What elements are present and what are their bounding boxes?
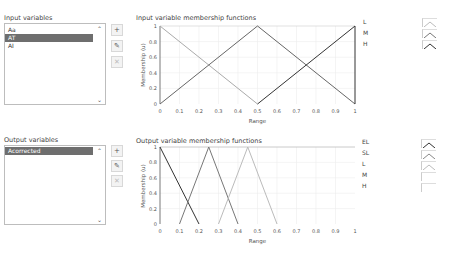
svg-text:0.9: 0.9 <box>332 108 340 114</box>
svg-text:0.6: 0.6 <box>273 108 281 114</box>
legend-m: M <box>363 29 368 36</box>
legend-sl: SL <box>362 149 369 156</box>
svg-text:0.7: 0.7 <box>293 108 301 114</box>
edit-output-variable-button[interactable]: ✎ <box>111 160 123 172</box>
mf-triangle-icon-el[interactable] <box>421 139 436 148</box>
legend-l: L <box>362 160 365 167</box>
list-item-ai[interactable]: AI <box>5 42 93 50</box>
scroll-down-icon[interactable]: ⌄ <box>97 96 102 103</box>
legend-el: EL <box>362 138 369 145</box>
svg-text:0.4: 0.4 <box>149 190 157 196</box>
legend-h: H <box>363 40 368 47</box>
edit-input-variable-button[interactable]: ✎ <box>111 40 123 52</box>
svg-text:0: 0 <box>154 221 157 227</box>
mf-triangle-icon-l[interactable] <box>422 18 437 27</box>
svg-text:0.2: 0.2 <box>149 206 157 212</box>
mf-triangle-icon-m[interactable] <box>422 29 437 38</box>
svg-text:0.8: 0.8 <box>149 159 157 165</box>
series-sl <box>180 147 239 224</box>
mf-empty-icon-m[interactable] <box>421 172 436 181</box>
scroll-up-icon[interactable]: ⌃ <box>97 147 102 154</box>
svg-text:1: 1 <box>353 108 356 114</box>
legend-l: L <box>363 18 366 25</box>
svg-text:0.1: 0.1 <box>176 108 184 114</box>
svg-text:0.7: 0.7 <box>293 228 301 234</box>
svg-text:0.6: 0.6 <box>149 54 157 60</box>
svg-text:0.8: 0.8 <box>312 108 320 114</box>
mf-triangle-icon-sl[interactable] <box>421 150 436 159</box>
svg-text:1: 1 <box>353 228 356 234</box>
input-variables-label: Input variables <box>4 14 53 22</box>
svg-text:1: 1 <box>154 144 157 150</box>
svg-text:0: 0 <box>154 101 157 107</box>
mf-triangle-icon-l[interactable] <box>421 161 436 170</box>
svg-text:1: 1 <box>154 23 157 29</box>
scroll-up-icon[interactable]: ⌃ <box>97 25 102 32</box>
mf-triangle-icon-h[interactable] <box>422 40 437 49</box>
list-item-acorrected[interactable]: Acorrected <box>5 147 93 155</box>
svg-text:0: 0 <box>158 228 161 234</box>
svg-text:0.6: 0.6 <box>273 228 281 234</box>
svg-text:0.3: 0.3 <box>215 228 223 234</box>
output-variables-list[interactable]: Acorrected ⌃ ⌄ <box>4 145 106 225</box>
svg-text:0.8: 0.8 <box>312 228 320 234</box>
svg-text:0: 0 <box>158 108 161 114</box>
svg-text:0.2: 0.2 <box>149 85 157 91</box>
output-x-axis-label: Range <box>249 238 267 245</box>
delete-output-variable-button[interactable]: ✕ <box>111 175 123 187</box>
svg-text:0.2: 0.2 <box>195 108 203 114</box>
svg-text:0.4: 0.4 <box>234 228 242 234</box>
svg-text:0.6: 0.6 <box>149 175 157 181</box>
svg-text:0.9: 0.9 <box>332 228 340 234</box>
svg-text:0.4: 0.4 <box>234 108 242 114</box>
list-item-aa[interactable]: Aa <box>5 26 93 34</box>
svg-text:0.8: 0.8 <box>149 39 157 45</box>
svg-text:0.1: 0.1 <box>176 228 184 234</box>
legend-h: H <box>362 182 367 189</box>
series-l <box>219 147 278 224</box>
output-y-axis-label: Membership (u) <box>140 164 147 208</box>
svg-text:0.4: 0.4 <box>149 70 157 76</box>
input-membership-chart: 00.20.4 0.60.81 00.10.20.3 0.40.50.60.7 … <box>136 20 362 132</box>
add-output-variable-button[interactable]: + <box>111 145 123 157</box>
input-variables-list[interactable]: Aa AT AI ⌃ ⌄ <box>4 23 106 105</box>
list-item-at[interactable]: AT <box>5 34 93 42</box>
delete-input-variable-button[interactable]: ✕ <box>111 56 123 68</box>
legend-m: M <box>362 171 367 178</box>
mf-empty-icon-h[interactable] <box>421 183 436 192</box>
svg-text:0.5: 0.5 <box>254 108 262 114</box>
svg-text:0.3: 0.3 <box>215 108 223 114</box>
input-x-axis-label: Range <box>249 118 267 125</box>
scroll-down-icon[interactable]: ⌄ <box>97 216 102 223</box>
input-y-axis-label: Membership (u) <box>140 43 147 87</box>
output-variables-label: Output variables <box>4 136 58 144</box>
add-input-variable-button[interactable]: + <box>111 24 123 36</box>
output-membership-chart: 00.20.4 0.60.81 00.10.20.3 0.40.50.60.7 … <box>136 141 362 253</box>
svg-text:0.2: 0.2 <box>195 228 203 234</box>
svg-text:0.5: 0.5 <box>254 228 262 234</box>
